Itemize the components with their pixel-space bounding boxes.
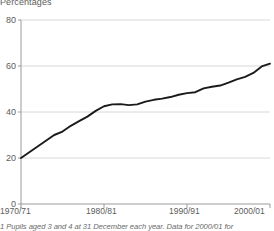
y-axis-tick-label: 20 [0,153,16,163]
x-axis-ticks [21,204,270,208]
x-axis-tick-label: 1980/81 [86,206,117,216]
gridlines [21,20,270,158]
y-axis-tick-label: 80 [0,15,16,25]
x-axis-tick-label: 2000/01 [234,206,265,216]
x-axis-tick-label: 1990/91 [169,206,200,216]
chart-figure: Percentages 020406080 1970/711980/811990… [0,0,274,231]
x-axis-tick-label: 1970/71 [0,206,31,216]
line-chart-plot [0,0,274,215]
y-axis-tick-label: 60 [0,61,16,71]
chart-footnote: 1 Pupils aged 3 and 4 at 31 December eac… [0,222,233,231]
data-line-series-0 [21,64,270,158]
y-axis-tick-label: 40 [0,107,16,117]
